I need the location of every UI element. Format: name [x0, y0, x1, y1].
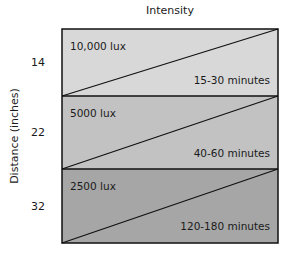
duration-label-1: 15-30 minutes [194, 74, 270, 86]
intensity-label-3: 2500 lux [70, 180, 116, 192]
chart-plot [0, 0, 296, 254]
duration-label-3: 120-180 minutes [180, 220, 270, 232]
intensity-label-2: 5000 lux [70, 107, 116, 119]
intensity-label-1: 10,000 lux [70, 40, 126, 52]
duration-label-2: 40-60 minutes [194, 147, 270, 159]
